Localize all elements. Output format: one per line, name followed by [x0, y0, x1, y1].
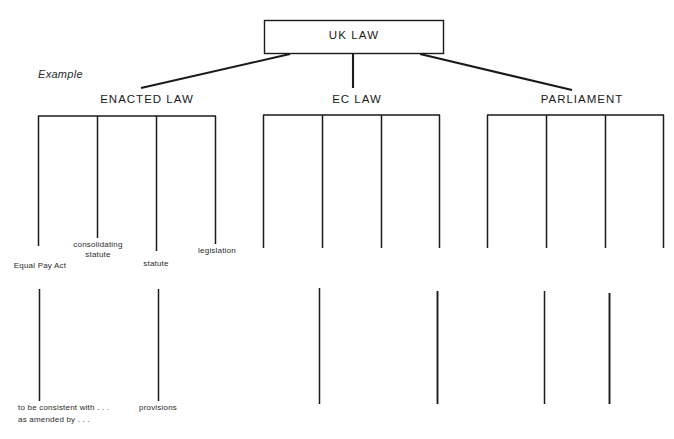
leaf-label-statute: statute [122, 259, 190, 269]
root-box-label: UK LAW [264, 28, 444, 42]
branch-label-enacted-law: ENACTED LAW [52, 92, 242, 106]
branch-label-parliament: PARLIAMENT [492, 92, 672, 106]
example-annotation: Example [38, 68, 83, 82]
connector-to-enacted-law [141, 54, 290, 88]
leaf-label-equal-pay-act: Equal Pay Act [0, 261, 82, 271]
leaf-label-consolidating-statute: consolidating statute [60, 240, 136, 260]
diagram-canvas: UK LAW Example ENACTED LAW EC LAW PARLIA… [0, 0, 674, 439]
leaf-label-as-amended-by: as amended by . . . [18, 415, 90, 425]
leaf-label-to-be-consistent-with: to be consistent with . . . [18, 403, 109, 413]
diagram-lines [0, 0, 674, 439]
leaf-label-provisions: provisions [139, 403, 177, 413]
connector-to-parliament [420, 54, 572, 90]
branch-label-ec-law: EC LAW [272, 92, 442, 106]
leaf-label-legislation: legislation [184, 246, 250, 256]
